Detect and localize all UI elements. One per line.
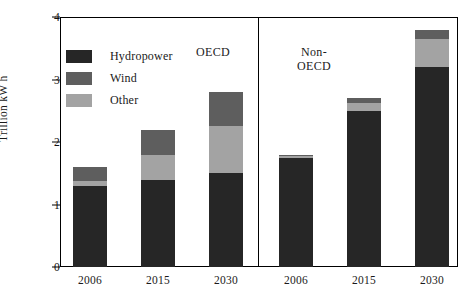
bar-segment-hydropower — [415, 67, 449, 267]
group-divider-line — [258, 17, 259, 267]
bar-segment-hydropower — [279, 158, 313, 267]
group-label-non-oecd-line1: Non- — [301, 45, 327, 59]
y-tick-mark — [52, 79, 60, 80]
bar-non-oecd-2015 — [347, 98, 381, 267]
stacked-bar-chart: Trillion kW h 01234 20062015203020062015… — [0, 0, 466, 303]
bar-oecd-2006 — [73, 167, 107, 267]
group-label-non-oecd: Non- OECD — [284, 46, 344, 74]
x-tick-label-0: 2006 — [60, 274, 120, 286]
x-tick-label-3: 2006 — [266, 274, 326, 286]
group-label-oecd: OECD — [178, 46, 248, 60]
bar-segment-wind — [73, 167, 107, 181]
bar-segment-hydropower — [209, 173, 243, 267]
legend-swatch-wind-icon — [66, 72, 92, 85]
bar-segment-hydropower — [73, 186, 107, 267]
bar-segment-wind — [415, 30, 449, 39]
x-tick-label-1: 2015 — [128, 274, 188, 286]
legend-swatch-other-icon — [66, 94, 92, 107]
bar-non-oecd-2006 — [279, 155, 313, 268]
bar-segment-other — [415, 39, 449, 67]
y-tick-mark — [52, 142, 60, 143]
bar-oecd-2015 — [141, 130, 175, 268]
bar-segment-hydropower — [347, 111, 381, 267]
legend-label-hydropower: Hydropower — [110, 49, 173, 64]
bar-segment-wind — [141, 130, 175, 155]
y-tick-mark — [52, 17, 60, 18]
y-tick-mark — [52, 204, 60, 205]
group-label-non-oecd-line2: OECD — [297, 59, 331, 73]
bar-segment-other — [347, 103, 381, 111]
legend-item-wind: Wind — [66, 67, 173, 89]
bar-oecd-2030 — [209, 92, 243, 267]
x-tick-label-5: 2030 — [402, 274, 462, 286]
bar-non-oecd-2030 — [415, 30, 449, 268]
bar-segment-hydropower — [141, 180, 175, 268]
x-tick-label-2: 2030 — [196, 274, 256, 286]
bar-segment-other — [209, 126, 243, 173]
legend-label-wind: Wind — [110, 71, 137, 86]
bar-segment-wind — [209, 92, 243, 126]
x-tick-label-4: 2015 — [334, 274, 394, 286]
legend-label-other: Other — [110, 93, 138, 108]
legend-swatch-hydropower-icon — [66, 50, 92, 63]
y-axis-title: Trillion kW h — [0, 75, 9, 142]
y-tick-mark — [52, 267, 60, 268]
bar-segment-other — [141, 155, 175, 180]
legend-item-hydropower: Hydropower — [66, 45, 173, 67]
legend-item-other: Other — [66, 89, 173, 111]
legend: Hydropower Wind Other — [66, 45, 173, 111]
